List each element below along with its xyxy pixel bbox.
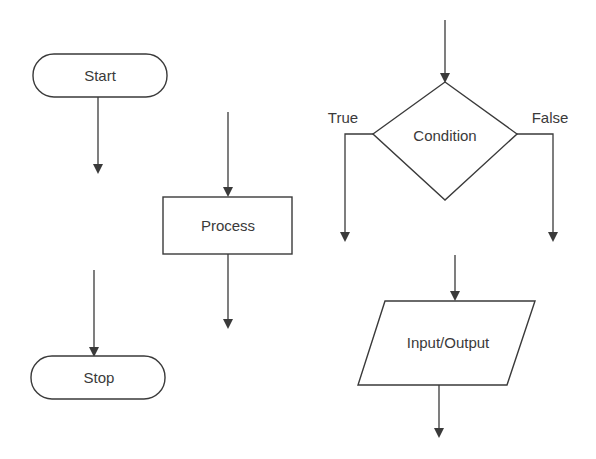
true-label: True [328, 109, 358, 126]
start-arrow [93, 97, 103, 174]
start-label: Start [84, 67, 117, 84]
flowchart-canvas: Start Process Stop [0, 0, 596, 459]
start-terminator: Start [33, 54, 167, 97]
io-parallelogram: Input/Output [358, 301, 535, 385]
stop-terminator: Stop [31, 356, 165, 399]
condition-label: Condition [413, 127, 476, 144]
false-branch-arrow [517, 134, 558, 242]
io-in-arrow [450, 255, 460, 301]
process-in-arrow [223, 112, 233, 197]
true-branch-arrow [340, 134, 373, 242]
stop-label: Stop [84, 369, 115, 386]
process-label: Process [201, 217, 255, 234]
stop-in-arrow [89, 270, 99, 357]
condition-diamond: Condition [373, 82, 517, 200]
io-out-arrow [434, 385, 444, 438]
process-out-arrow [223, 254, 233, 329]
false-label: False [532, 109, 569, 126]
io-label: Input/Output [407, 334, 490, 351]
condition-in-arrow [440, 20, 450, 83]
process-box: Process [163, 197, 292, 254]
